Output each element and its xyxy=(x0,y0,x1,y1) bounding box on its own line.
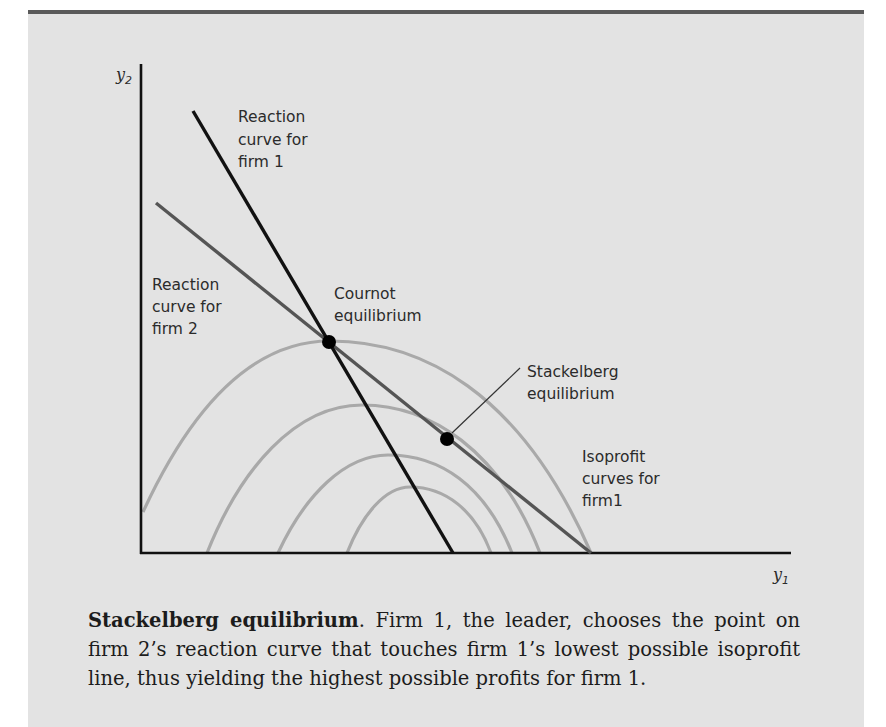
cournot-point xyxy=(322,335,336,349)
svg-text:curves for: curves for xyxy=(582,470,660,488)
firm1-reaction-label: Reaction curve for firm 1 xyxy=(238,108,308,171)
svg-text:Reaction: Reaction xyxy=(238,108,305,126)
y-axis-label: y2 xyxy=(115,65,132,87)
isoprofit-curve-2 xyxy=(207,405,540,553)
svg-text:Reaction: Reaction xyxy=(152,276,219,294)
stackelberg-point xyxy=(440,432,454,446)
stackelberg-label: Stackelberg equilibrium xyxy=(527,363,619,403)
svg-text:curve for: curve for xyxy=(238,131,308,149)
isoprofit-curve-3 xyxy=(278,455,512,553)
svg-text:Cournot: Cournot xyxy=(334,285,396,303)
isoprofit-label: Isoprofit curves for firm1 xyxy=(582,448,660,510)
firm2-reaction-label: Reaction curve for firm 2 xyxy=(152,276,222,338)
svg-text:firm1: firm1 xyxy=(582,492,623,510)
cournot-label: Cournot equilibrium xyxy=(334,285,422,325)
svg-text:Stackelberg: Stackelberg xyxy=(527,363,619,381)
svg-text:firm 1: firm 1 xyxy=(238,153,284,171)
caption-title: Stackelberg equilibrium xyxy=(88,609,359,632)
x-axis-label: y1 xyxy=(772,565,789,587)
svg-text:equilibrium: equilibrium xyxy=(334,307,422,325)
svg-text:equilibrium: equilibrium xyxy=(527,385,615,403)
firm2-reaction-curve xyxy=(156,203,591,553)
svg-text:firm 2: firm 2 xyxy=(152,320,198,338)
figure-caption: Stackelberg equilibrium. Firm 1, the lea… xyxy=(88,606,800,693)
svg-text:Isoprofit: Isoprofit xyxy=(582,448,645,466)
svg-text:curve for: curve for xyxy=(152,298,222,316)
